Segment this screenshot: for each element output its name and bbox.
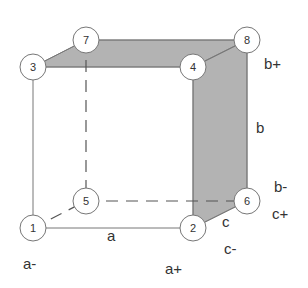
node-2: 2: [180, 215, 206, 241]
cube-diagram: 1 2 3 4 5 6 7 8 a a- a+ b b+ b- c c+ c-: [0, 0, 308, 288]
node-7-label: 7: [83, 34, 89, 46]
label-c-plus: c+: [272, 205, 289, 222]
label-b-minus: b-: [274, 178, 287, 195]
node-1-label: 1: [30, 222, 36, 234]
node-1: 1: [20, 215, 46, 241]
node-8-label: 8: [244, 34, 250, 46]
label-b: b: [256, 119, 264, 136]
label-a: a: [107, 227, 116, 244]
node-3: 3: [20, 54, 46, 80]
label-c: c: [222, 213, 230, 230]
node-5: 5: [73, 188, 99, 214]
node-5-label: 5: [83, 195, 89, 207]
node-6-label: 6: [244, 195, 250, 207]
label-a-minus: a-: [23, 255, 36, 272]
node-3-label: 3: [30, 61, 36, 73]
label-c-minus: c-: [224, 240, 237, 257]
label-b-plus: b+: [264, 55, 281, 72]
node-6: 6: [234, 188, 260, 214]
node-4: 4: [180, 54, 206, 80]
node-4-label: 4: [190, 61, 196, 73]
node-7: 7: [73, 27, 99, 53]
node-2-label: 2: [190, 222, 196, 234]
node-8: 8: [234, 27, 260, 53]
label-a-plus: a+: [165, 260, 182, 277]
